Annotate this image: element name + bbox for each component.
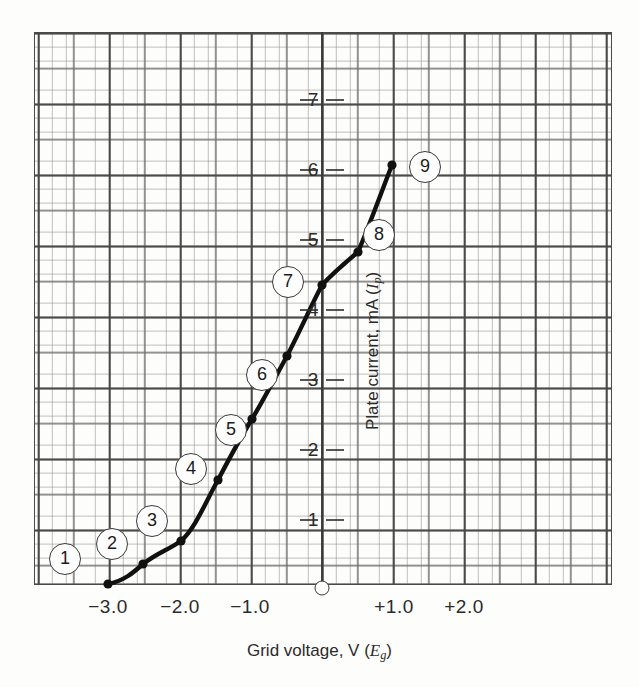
y-axis-title: Plate current, mA (Ip) [363, 272, 385, 430]
x-tick-label: +1.0 [374, 596, 414, 618]
y-tick-label: 4 [308, 299, 319, 321]
y-tick-label: 7 [308, 89, 319, 111]
x-tick-label: +2.0 [444, 596, 484, 618]
x-axis-title-suffix: ) [386, 641, 392, 660]
callout-1: 1 [49, 543, 81, 575]
origin-circle-icon [315, 581, 330, 596]
callout-4: 4 [175, 453, 207, 485]
plot-area-graph-paper [34, 32, 612, 585]
callout-6: 6 [246, 359, 278, 391]
x-tick-label: −3.0 [88, 596, 128, 618]
callout-8: 8 [363, 219, 395, 251]
y-axis-title-subscript: p [370, 277, 384, 283]
y-tick-label: 1 [308, 509, 319, 531]
x-tick-label: −2.0 [160, 596, 200, 618]
callout-7: 7 [272, 266, 304, 298]
y-axis-title-symbol: I [363, 284, 382, 290]
y-tick-label: 3 [308, 369, 319, 391]
callout-2: 2 [96, 528, 128, 560]
callout-5: 5 [215, 414, 247, 446]
y-tick-label: 5 [308, 229, 319, 251]
x-axis-title-symbol: E [370, 641, 380, 660]
y-axis-title-suffix: ) [363, 272, 382, 278]
y-tick-label: 6 [308, 159, 319, 181]
callout-9: 9 [409, 151, 441, 183]
figure-container: −3.0−2.0−1.0+1.0+2.0 1234567 123456789 P… [0, 0, 639, 687]
y-axis-title-prefix: Plate current, mA ( [363, 289, 382, 430]
callout-3: 3 [136, 505, 168, 537]
x-axis-title: Grid voltage, V (Eg) [0, 641, 639, 663]
x-tick-label: −1.0 [230, 596, 270, 618]
y-tick-label: 2 [308, 439, 319, 461]
x-axis-title-prefix: Grid voltage, V ( [247, 641, 370, 660]
